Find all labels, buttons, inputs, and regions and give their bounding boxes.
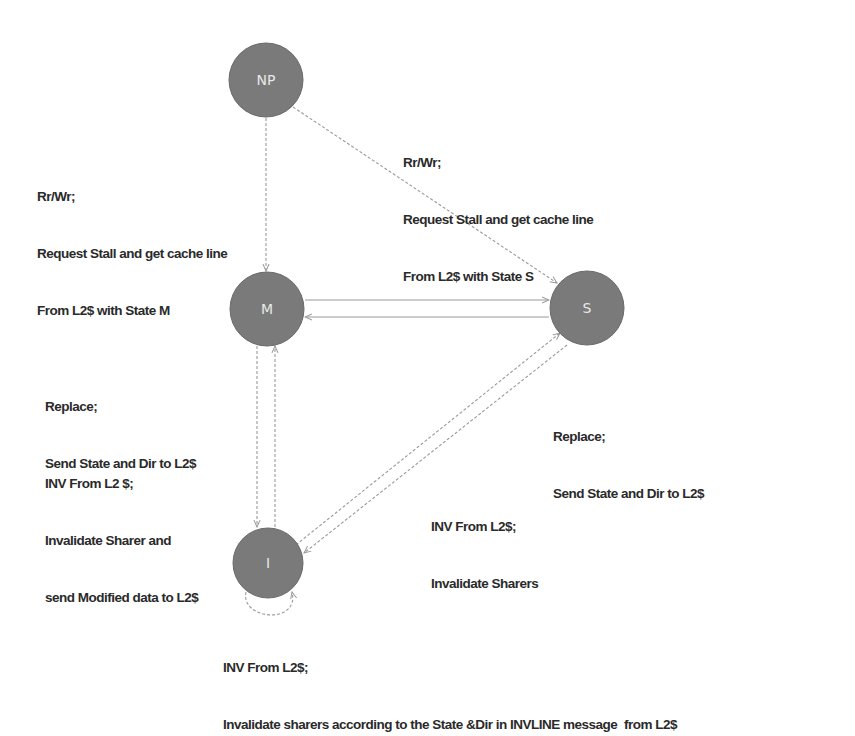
label-line: Rr/Wr;: [37, 187, 227, 206]
state-node-np-label: NP: [257, 72, 276, 88]
label-line: INV From L2$;: [431, 517, 538, 536]
label-line: Invalidate sharers according to the Stat…: [223, 715, 677, 734]
label-line: Invalidate Sharer and: [45, 531, 198, 550]
label-line: send Modified data to L2$: [45, 588, 198, 607]
state-node-i-label: I: [266, 555, 270, 571]
label-s-inv: INV From L2$; Invalidate Sharers: [431, 479, 538, 612]
label-i-self: INV From L2$; Invalidate sharers accordi…: [223, 620, 677, 736]
state-node-np: NP: [229, 43, 303, 117]
label-s-replace: Replace; Send State and Dir to L2$: [553, 389, 704, 522]
label-line: From L2$ with State M: [37, 301, 227, 320]
label-line: Invalidate Sharers: [431, 574, 538, 593]
state-node-m-label: M: [261, 301, 273, 317]
label-line: Request Stall and get cache line: [403, 210, 593, 229]
label-np-to-s: Rr/Wr; Request Stall and get cache line …: [403, 115, 593, 305]
label-line: Replace;: [45, 397, 196, 416]
label-m-inv: INV From L2 $; Invalidate Sharer and sen…: [45, 436, 198, 626]
label-line: Send State and Dir to L2$: [553, 484, 704, 503]
label-line: INV From L2$;: [223, 658, 677, 677]
label-line: INV From L2 $;: [45, 474, 198, 493]
label-line: Replace;: [553, 427, 704, 446]
label-line: Rr/Wr;: [403, 153, 593, 172]
label-line: From L2$ with State S: [403, 267, 593, 286]
state-node-m: M: [230, 272, 304, 346]
label-np-to-m: Rr/Wr; Request Stall and get cache line …: [37, 149, 227, 339]
label-line: Request Stall and get cache line: [37, 244, 227, 263]
state-node-i: I: [233, 528, 303, 598]
